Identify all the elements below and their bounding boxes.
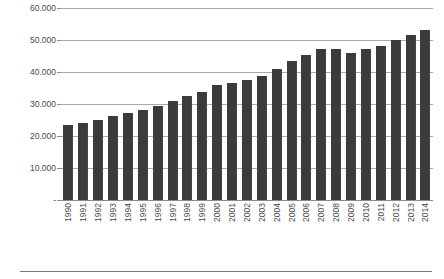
y-tick-label: 20.000 bbox=[4, 131, 56, 141]
bar[interactable] bbox=[272, 69, 282, 200]
bar-slot bbox=[359, 8, 374, 200]
bar-series bbox=[61, 8, 433, 200]
x-tick-label: 1990 bbox=[63, 203, 73, 222]
bar[interactable] bbox=[168, 101, 178, 200]
bar-slot bbox=[344, 8, 359, 200]
y-tick-label: 60.000 bbox=[4, 3, 56, 13]
bar[interactable] bbox=[212, 85, 222, 200]
x-label-slot: 2006 bbox=[299, 203, 314, 255]
bar[interactable] bbox=[361, 49, 371, 200]
y-tick-label: 50.000 bbox=[4, 35, 56, 45]
bar[interactable] bbox=[182, 96, 192, 200]
bar-slot bbox=[210, 8, 225, 200]
bar[interactable] bbox=[316, 49, 326, 200]
x-tick-label: 2011 bbox=[376, 203, 386, 221]
x-label-slot: 2014 bbox=[418, 203, 433, 255]
bar[interactable] bbox=[420, 30, 430, 200]
bar[interactable] bbox=[197, 92, 207, 200]
bar-slot bbox=[329, 8, 344, 200]
x-tick-label: 1997 bbox=[168, 203, 178, 222]
bar-slot bbox=[373, 8, 388, 200]
y-tick-label: 40.000 bbox=[4, 67, 56, 77]
x-label-slot: 1992 bbox=[91, 203, 106, 255]
x-label-slot: 2013 bbox=[403, 203, 418, 255]
x-tick-label: 2014 bbox=[420, 203, 430, 222]
x-label-slot: 2001 bbox=[225, 203, 240, 255]
x-label-slot: 2009 bbox=[344, 203, 359, 255]
x-label-slot: 1990 bbox=[61, 203, 76, 255]
bar-slot bbox=[225, 8, 240, 200]
bar-slot bbox=[284, 8, 299, 200]
y-tick-label: - bbox=[4, 195, 56, 205]
bar[interactable] bbox=[242, 80, 252, 200]
bar-slot bbox=[299, 8, 314, 200]
bar-slot bbox=[91, 8, 106, 200]
x-label-slot: 1991 bbox=[76, 203, 91, 255]
bar-slot bbox=[180, 8, 195, 200]
bar-slot bbox=[388, 8, 403, 200]
y-tick-label: 30.000 bbox=[4, 99, 56, 109]
bar[interactable] bbox=[108, 116, 118, 200]
x-label-slot: 2011 bbox=[373, 203, 388, 255]
bar-slot bbox=[240, 8, 255, 200]
x-tick-label: 2000 bbox=[212, 203, 222, 222]
plot-area bbox=[61, 8, 433, 200]
bar[interactable] bbox=[331, 49, 341, 200]
bar[interactable] bbox=[406, 35, 416, 200]
x-label-slot: 1994 bbox=[121, 203, 136, 255]
bar[interactable] bbox=[287, 61, 297, 200]
x-tick-label: 1992 bbox=[93, 203, 103, 222]
x-label-slot: 1999 bbox=[195, 203, 210, 255]
x-label-slot: 2005 bbox=[284, 203, 299, 255]
x-label-slot: 1997 bbox=[165, 203, 180, 255]
x-label-slot: 2010 bbox=[359, 203, 374, 255]
bar-slot bbox=[61, 8, 76, 200]
bar-slot bbox=[121, 8, 136, 200]
bar[interactable] bbox=[257, 76, 267, 200]
bar-slot bbox=[165, 8, 180, 200]
bar-slot bbox=[418, 8, 433, 200]
y-tick-label: 10.000 bbox=[4, 163, 56, 173]
x-axis-tick-labels: 1990199119921993199419951996199719981999… bbox=[61, 203, 433, 255]
x-label-slot: 2007 bbox=[314, 203, 329, 255]
x-tick-label: 1999 bbox=[197, 203, 207, 222]
x-tick-label: 2002 bbox=[242, 203, 252, 222]
bar-chart: em US$ 60.00050.00040.00030.00020.00010.… bbox=[0, 0, 444, 279]
x-label-slot: 2000 bbox=[210, 203, 225, 255]
x-tick-label: 2005 bbox=[287, 203, 297, 222]
bar[interactable] bbox=[93, 120, 103, 200]
x-tick-label: 2003 bbox=[257, 203, 267, 222]
bar[interactable] bbox=[376, 46, 386, 200]
bar[interactable] bbox=[227, 83, 237, 200]
x-label-slot: 1995 bbox=[135, 203, 150, 255]
bar[interactable] bbox=[138, 110, 148, 200]
bar[interactable] bbox=[391, 40, 401, 200]
x-tick-label: 2013 bbox=[406, 203, 416, 222]
bar[interactable] bbox=[153, 106, 163, 200]
x-tick-label: 1998 bbox=[182, 203, 192, 222]
bar[interactable] bbox=[78, 123, 88, 200]
bar-slot bbox=[314, 8, 329, 200]
x-tick-label: 1991 bbox=[78, 203, 88, 222]
x-tick-label: 1994 bbox=[123, 203, 133, 222]
x-label-slot: 1996 bbox=[150, 203, 165, 255]
gridline bbox=[61, 200, 433, 201]
x-label-slot: 2003 bbox=[254, 203, 269, 255]
bar[interactable] bbox=[346, 53, 356, 200]
bar[interactable] bbox=[123, 113, 133, 200]
y-axis-tick-labels: 60.00050.00040.00030.00020.00010.000- bbox=[0, 8, 56, 200]
x-tick-label: 2008 bbox=[331, 203, 341, 222]
bar-slot bbox=[135, 8, 150, 200]
x-label-slot: 2012 bbox=[388, 203, 403, 255]
x-tick-label: 2007 bbox=[316, 203, 326, 222]
x-tick-label: 1993 bbox=[108, 203, 118, 222]
x-label-slot: 2008 bbox=[329, 203, 344, 255]
bar-slot bbox=[254, 8, 269, 200]
bar-slot bbox=[269, 8, 284, 200]
bar-slot bbox=[150, 8, 165, 200]
bar[interactable] bbox=[301, 55, 311, 200]
x-tick-label: 2010 bbox=[361, 203, 371, 222]
x-tick-label: 2001 bbox=[227, 203, 237, 222]
bar[interactable] bbox=[63, 125, 73, 200]
x-label-slot: 1993 bbox=[106, 203, 121, 255]
